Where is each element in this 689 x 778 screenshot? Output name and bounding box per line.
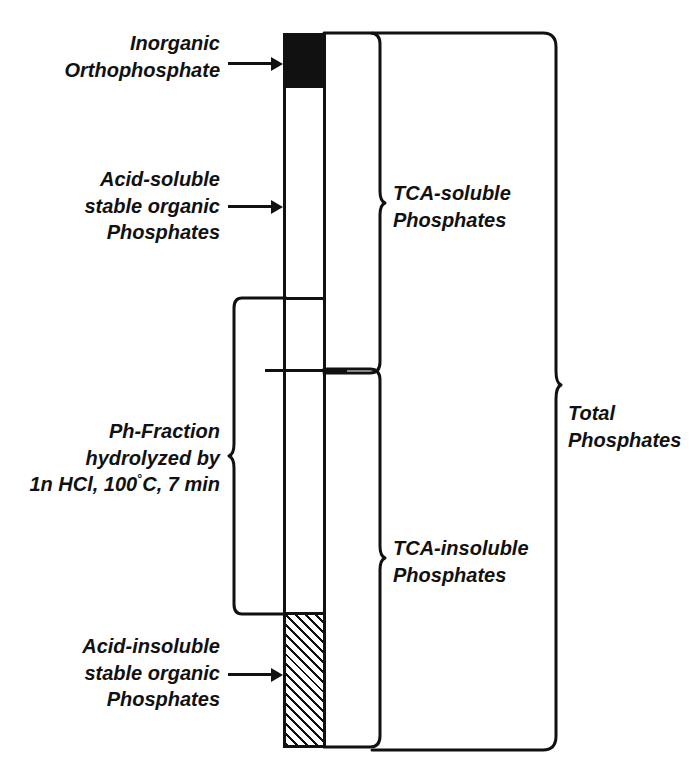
label-acid-soluble-stable-organic-phosphates: Acid-soluble stable organic Phosphates [20,166,220,246]
brace-path [372,33,561,750]
label-line: Phosphates [12,686,220,713]
label-line: TCA-insoluble [393,535,583,562]
arrow-shaft [228,205,273,208]
label-line: Inorganic [20,30,220,57]
hcl-prefix: 1n HCl, 100 [29,473,137,495]
label-inorganic-orthophosphate: Inorganic Orthophosphate [20,30,220,83]
arrow-head [271,200,283,214]
label-tca-insoluble-phosphates: TCA-insoluble Phosphates [393,535,583,588]
label-line: Phosphates [20,219,220,246]
label-tca-soluble-phosphates: TCA-soluble Phosphates [393,180,573,233]
segment-acid-insoluble-hatched [286,612,323,745]
arrow-icon-acid-soluble [228,200,283,214]
arrow-head [271,57,283,71]
arrow-icon-acid-insoluble [228,668,283,682]
brace-path [229,298,286,614]
label-line: Phosphates [393,207,573,234]
label-line: Phosphates [393,562,583,589]
arrow-shaft [228,62,273,65]
segment-boundary-acid-soluble [286,297,323,300]
label-line: Acid-insoluble [12,633,220,660]
hcl-suffix: C, 7 min [142,473,220,495]
label-line: Orthophosphate [20,57,220,84]
label-line: Phosphates [568,427,688,454]
label-line: stable organic [20,193,220,220]
label-line: Acid-soluble [20,166,220,193]
label-acid-insoluble-stable-organic-phosphates: Acid-insoluble stable organic Phosphates [12,633,220,713]
arrow-shaft [228,673,273,676]
label-line: stable organic [12,660,220,687]
label-line-hcl-conditions: 1n HCl, 100°C, 7 min [8,471,220,498]
arrow-head [271,668,283,682]
label-line: hydrolyzed by [8,445,220,472]
label-ph-fraction-hydrolyzed: Ph-Fraction hydrolyzed by 1n HCl, 100°C,… [8,418,220,498]
label-total-phosphates: Total Phosphates [568,400,688,453]
label-line: Ph-Fraction [8,418,220,445]
brace-right-total-phosphates [370,31,562,752]
label-line: Total [568,400,688,427]
label-line: TCA-soluble [393,180,573,207]
segment-inorganic-orthophosphate [286,36,323,88]
brace-left-ph-fraction [228,296,288,616]
phosphate-fractionation-diagram: Inorganic Orthophosphate Acid-soluble st… [0,0,689,778]
arrow-icon-inorganic [228,57,283,71]
phosphate-column [283,33,326,748]
